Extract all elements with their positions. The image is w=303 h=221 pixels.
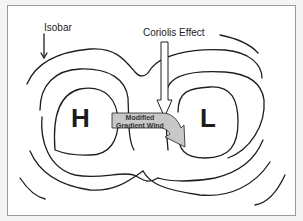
coriolis-effect-label: Coriolis Effect bbox=[143, 27, 205, 38]
gradient-wind-label: Modified Gradient Wind bbox=[112, 114, 168, 130]
high-pressure-label: H bbox=[71, 103, 90, 134]
coriolis-arrow-icon bbox=[157, 42, 172, 117]
isobar-label: Isobar bbox=[44, 22, 72, 33]
gradient-wind-line1: Modified bbox=[112, 114, 168, 122]
gradient-wind-line2: Gradient Wind bbox=[112, 122, 168, 130]
low-pressure-label: L bbox=[200, 103, 216, 134]
